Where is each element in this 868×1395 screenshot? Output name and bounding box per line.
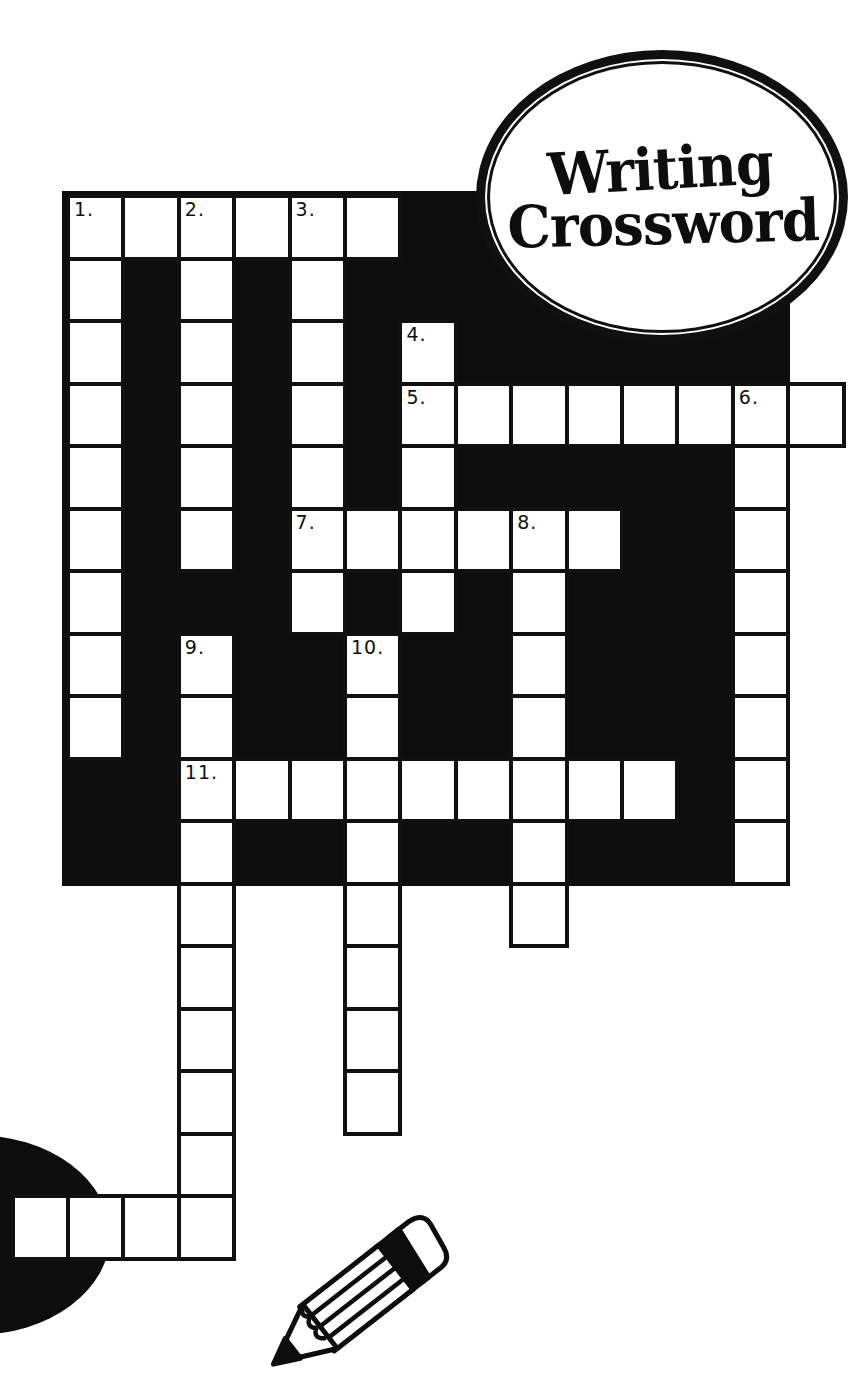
cell-r9-c2[interactable]: 11. xyxy=(177,757,236,824)
cell-r2-c4[interactable] xyxy=(288,319,347,386)
cell-number: 5. xyxy=(406,387,426,408)
cell-r3-c4[interactable] xyxy=(288,382,347,449)
cell-r16-c2[interactable] xyxy=(177,1194,236,1261)
cell-r5-c2[interactable] xyxy=(177,507,236,574)
cell-r5-c7[interactable] xyxy=(454,507,513,574)
cell-r7-c0[interactable] xyxy=(66,632,125,699)
cell-r11-c2[interactable] xyxy=(177,882,236,949)
cell-r8-c2[interactable] xyxy=(177,694,236,761)
cell-r0-c4[interactable]: 3. xyxy=(288,194,347,261)
logo-oval: Writing Crossword xyxy=(476,50,848,344)
worksheet-page: 1.2.3.4.5.6.7.8.9.10.11. Writing Crosswo… xyxy=(0,0,868,1395)
cell-r9-c5[interactable] xyxy=(343,757,402,824)
cell-r3-c2[interactable] xyxy=(177,382,236,449)
cell-r16-c0[interactable] xyxy=(66,1194,125,1261)
cell-r9-c12[interactable] xyxy=(731,757,790,824)
cell-r0-c2[interactable]: 2. xyxy=(177,194,236,261)
cell-r9-c4[interactable] xyxy=(288,757,347,824)
cell-r12-c5[interactable] xyxy=(343,944,402,1011)
cell-r5-c5[interactable] xyxy=(343,507,402,574)
cell-r9-c3[interactable] xyxy=(232,757,291,824)
cell-r1-c0[interactable] xyxy=(66,257,125,324)
cell-r3-c6[interactable]: 5. xyxy=(398,382,457,449)
page-title: Writing Crossword xyxy=(504,134,821,260)
cell-r3-c13[interactable] xyxy=(786,382,845,449)
cell-r0-c3[interactable] xyxy=(232,194,291,261)
cell-r16-c1[interactable] xyxy=(121,1194,180,1261)
cell-r2-c6[interactable]: 4. xyxy=(398,319,457,386)
cell-r4-c0[interactable] xyxy=(66,444,125,511)
cell-r5-c12[interactable] xyxy=(731,507,790,574)
cell-r4-c6[interactable] xyxy=(398,444,457,511)
cell-r12-c2[interactable] xyxy=(177,944,236,1011)
cell-r2-c0[interactable] xyxy=(66,319,125,386)
cell-r13-c2[interactable] xyxy=(177,1007,236,1074)
cell-r4-c2[interactable] xyxy=(177,444,236,511)
cell-r15-c2[interactable] xyxy=(177,1132,236,1199)
cell-r5-c8[interactable]: 8. xyxy=(509,507,568,574)
cell-r5-c4[interactable]: 7. xyxy=(288,507,347,574)
cell-r13-c5[interactable] xyxy=(343,1007,402,1074)
cell-r8-c12[interactable] xyxy=(731,694,790,761)
cell-r3-c7[interactable] xyxy=(454,382,513,449)
cell-r5-c0[interactable] xyxy=(66,507,125,574)
cell-r10-c8[interactable] xyxy=(509,819,568,886)
cell-r5-c9[interactable] xyxy=(565,507,624,574)
cell-r7-c5[interactable]: 10. xyxy=(343,632,402,699)
cell-number: 9. xyxy=(185,637,205,658)
cell-r5-c6[interactable] xyxy=(398,507,457,574)
cell-r10-c5[interactable] xyxy=(343,819,402,886)
cell-r7-c8[interactable] xyxy=(509,632,568,699)
cell-r3-c9[interactable] xyxy=(565,382,624,449)
cell-r7-c12[interactable] xyxy=(731,632,790,699)
cell-r9-c6[interactable] xyxy=(398,757,457,824)
cell-r3-c11[interactable] xyxy=(675,382,734,449)
cell-r6-c4[interactable] xyxy=(288,569,347,636)
cell-r1-c2[interactable] xyxy=(177,257,236,324)
cell-number: 6. xyxy=(739,387,759,408)
title-line-2: Crossword xyxy=(507,193,820,256)
cell-r2-c2[interactable] xyxy=(177,319,236,386)
cell-r3-c8[interactable] xyxy=(509,382,568,449)
cell-r14-c5[interactable] xyxy=(343,1069,402,1136)
cell-number: 4. xyxy=(406,324,426,345)
cell-number: 8. xyxy=(517,512,537,533)
cell-r11-c8[interactable] xyxy=(509,882,568,949)
cell-r10-c12[interactable] xyxy=(731,819,790,886)
cell-r14-c2[interactable] xyxy=(177,1069,236,1136)
cell-number: 1. xyxy=(74,199,94,220)
cell-r9-c8[interactable] xyxy=(509,757,568,824)
cell-r1-c4[interactable] xyxy=(288,257,347,324)
cell-r3-c12[interactable]: 6. xyxy=(731,382,790,449)
cell-r6-c0[interactable] xyxy=(66,569,125,636)
cell-r6-c6[interactable] xyxy=(398,569,457,636)
cell-r4-c12[interactable] xyxy=(731,444,790,511)
cell-r6-c8[interactable] xyxy=(509,569,568,636)
cell-r8-c5[interactable] xyxy=(343,694,402,761)
cell-r9-c9[interactable] xyxy=(565,757,624,824)
cell-r11-c5[interactable] xyxy=(343,882,402,949)
cell-r9-c10[interactable] xyxy=(620,757,679,824)
cell-number: 2. xyxy=(185,199,205,220)
cell-number: 7. xyxy=(296,512,316,533)
cell-r7-c2[interactable]: 9. xyxy=(177,632,236,699)
cell-r10-c2[interactable] xyxy=(177,819,236,886)
cell-r0-c0[interactable]: 1. xyxy=(66,194,125,261)
cell-number: 3. xyxy=(296,199,316,220)
cell-r8-c8[interactable] xyxy=(509,694,568,761)
cell-r9-c7[interactable] xyxy=(454,757,513,824)
cell-r0-c5[interactable] xyxy=(343,194,402,261)
cell-number: 10. xyxy=(351,637,384,658)
cell-r3-c0[interactable] xyxy=(66,382,125,449)
cell-r4-c4[interactable] xyxy=(288,444,347,511)
cell-r6-c12[interactable] xyxy=(731,569,790,636)
cell-r0-c1[interactable] xyxy=(121,194,180,261)
cell-r16-c-1[interactable] xyxy=(11,1194,70,1261)
cell-number: 11. xyxy=(185,762,218,783)
cell-r3-c10[interactable] xyxy=(620,382,679,449)
cell-r8-c0[interactable] xyxy=(66,694,125,761)
pencil-icon xyxy=(256,1206,486,1395)
